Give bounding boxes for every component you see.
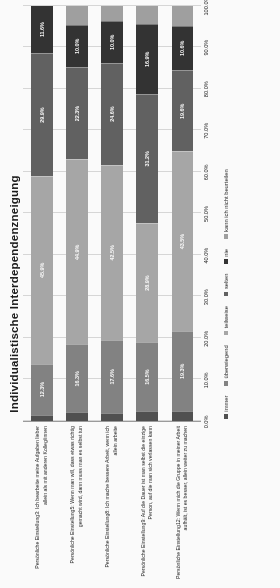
bar-segment: 10.6% xyxy=(172,26,194,70)
bar-row: 12.3%45.9%29.9%11.6% xyxy=(24,6,59,421)
legend-label: nie xyxy=(223,249,229,257)
legend-swatch-icon xyxy=(224,414,229,419)
x-axis-tick-label: 70.0% xyxy=(203,123,209,139)
rotated-figure-wrapper: Individualistische Interdependenzneigung… xyxy=(0,0,280,588)
category-label: Persönliche Einstellung3: Ich bearbeite … xyxy=(24,422,59,580)
x-axis-tick-label: 50.0% xyxy=(203,206,209,222)
bar-segment: 16.5% xyxy=(136,342,158,411)
bar-segment: 24.6% xyxy=(101,63,123,165)
chart-legend: immerüberwiegendteilweiseseltenniekann i… xyxy=(223,6,229,582)
bar-row: 16.5%28.9%31.2%16.9% xyxy=(130,6,165,421)
bar-segment: 10.0% xyxy=(66,25,88,67)
legend-swatch-icon xyxy=(224,234,229,239)
category-label: Persönliche Einstellung5: Wenn man will,… xyxy=(59,422,94,580)
plot-area: Persönliche Einstellung3: Ich bearbeite … xyxy=(23,6,201,580)
legend-swatch-icon xyxy=(224,331,229,336)
bar-row: 16.3%44.9%22.3%10.0% xyxy=(59,6,94,421)
x-axis-tick-label: 80.0% xyxy=(203,81,209,97)
bar-segment xyxy=(136,6,158,24)
category-label: Persönliche Einstellung12: Wenn mich die… xyxy=(165,422,200,580)
category-label: Persönliche Einstellung8: Ich mache bess… xyxy=(94,422,129,580)
x-axis-tick-label: 60.0% xyxy=(203,164,209,180)
bar-segment: 12.3% xyxy=(31,364,53,415)
bar-segment xyxy=(66,6,88,25)
legend-label: selten xyxy=(223,274,229,289)
x-axis-tick-label: 90.0% xyxy=(203,40,209,56)
x-axis-tick-label: 30.0% xyxy=(203,289,209,305)
bars-region: 12.3%45.9%29.9%11.6%16.3%44.9%22.3%10.0%… xyxy=(23,6,201,422)
legend-label: teilweise xyxy=(223,306,229,328)
stacked-bar: 16.3%44.9%22.3%10.0% xyxy=(66,6,88,421)
bar-row: 17.6%42.5%24.6%10.0% xyxy=(94,6,129,421)
chart-title: Individualistische Interdependenzneigung xyxy=(8,6,20,582)
bar-segment: 42.5% xyxy=(101,165,123,340)
legend-item[interactable]: überwiegend xyxy=(223,345,229,385)
legend-item[interactable]: nie xyxy=(223,249,229,264)
bar-segment xyxy=(101,413,123,421)
x-axis-tick-label: 100.0% xyxy=(203,0,209,15)
stacked-bar: 17.6%42.5%24.6%10.0% xyxy=(101,6,123,421)
x-axis-tick-label: 10.0% xyxy=(203,372,209,388)
bar-segment xyxy=(172,6,194,26)
bar-segment: 16.3% xyxy=(66,344,88,412)
x-axis-tick-label: 40.0% xyxy=(203,248,209,264)
legend-item[interactable]: selten xyxy=(223,274,229,296)
legend-label: immer xyxy=(223,396,229,412)
legend-swatch-icon xyxy=(224,292,229,297)
bar-segment: 45.9% xyxy=(31,176,53,364)
chart-figure: Individualistische Interdependenzneigung… xyxy=(0,0,280,588)
bar-segment xyxy=(172,411,194,421)
legend-label: kann ich nicht beurteilen xyxy=(223,169,229,232)
stacked-bar: 16.5%28.9%31.2%16.9% xyxy=(136,6,158,421)
bar-segment: 10.0% xyxy=(101,21,123,63)
legend-label: überwiegend xyxy=(223,345,229,378)
stacked-bar: 12.3%45.9%29.9%11.6% xyxy=(31,6,53,421)
x-axis-tick-label: 20.0% xyxy=(203,331,209,347)
x-axis: 0.0%10.0%20.0%30.0%40.0%50.0%60.0%70.0%8… xyxy=(201,6,217,422)
stacked-bar: 19.3%43.5%19.6%10.6% xyxy=(172,6,194,421)
legend-item[interactable]: immer xyxy=(223,396,229,419)
legend-swatch-icon xyxy=(224,381,229,386)
bar-segment: 22.3% xyxy=(66,67,88,159)
bar-segment: 44.9% xyxy=(66,159,88,344)
bar-row: 19.3%43.5%19.6%10.6% xyxy=(165,6,200,421)
bar-segment: 29.9% xyxy=(31,53,53,176)
bar-segment: 31.2% xyxy=(136,94,158,223)
bar-segment: 11.6% xyxy=(31,6,53,53)
bar-segment xyxy=(136,411,158,421)
bar-segment: 17.6% xyxy=(101,340,123,413)
bar-segment: 16.9% xyxy=(136,24,158,94)
legend-item[interactable]: teilweise xyxy=(223,306,229,335)
bar-segment xyxy=(66,412,88,421)
category-axis: Persönliche Einstellung3: Ich bearbeite … xyxy=(23,422,201,580)
bar-segment: 43.5% xyxy=(172,151,194,330)
category-label: Persönliche Einstellung9: Auf die Dauer … xyxy=(130,422,165,580)
bar-segment xyxy=(101,6,123,21)
bar-segment: 19.3% xyxy=(172,331,194,411)
bar-segment xyxy=(31,415,53,421)
x-axis-tick-label: 0.0% xyxy=(203,416,209,429)
legend-swatch-icon xyxy=(224,259,229,264)
bar-segment: 28.9% xyxy=(136,223,158,342)
bar-segment: 19.6% xyxy=(172,70,194,151)
legend-item[interactable]: kann ich nicht beurteilen xyxy=(223,169,229,239)
